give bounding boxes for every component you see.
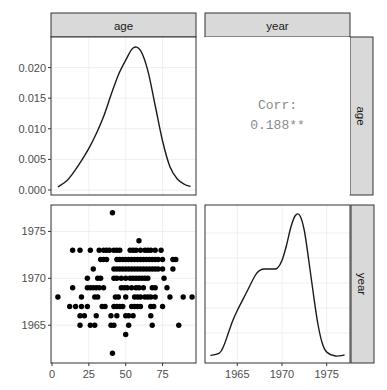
corr-label: Corr:: [258, 98, 297, 113]
scatter-point: [181, 294, 186, 299]
scatter-point: [117, 247, 122, 252]
scatter-point: [170, 266, 175, 271]
scatter-point: [123, 294, 128, 299]
panel-background: [51, 205, 196, 363]
strip-top-year: year: [205, 13, 350, 37]
scatter-point: [189, 294, 194, 299]
y-tick-label: 0.000: [18, 184, 46, 196]
x-tick-label: 1965: [225, 368, 249, 380]
scatter-point: [77, 247, 82, 252]
scatter-point: [130, 313, 135, 318]
scatter-point: [161, 276, 166, 281]
scatter-point: [136, 238, 141, 243]
scatter-point: [150, 322, 155, 327]
y-axis: 196519701975: [22, 225, 51, 331]
scatter-point: [110, 351, 115, 356]
scatter-point: [120, 304, 125, 309]
scatter-point: [116, 294, 121, 299]
scatter-point: [79, 294, 84, 299]
y-tick-label: 0.005: [18, 153, 46, 165]
scatter-point: [126, 322, 131, 327]
x-tick-label: 50: [120, 368, 132, 380]
scatter-point: [95, 294, 100, 299]
scatter-point: [91, 266, 96, 271]
scatter-point: [164, 285, 169, 290]
scatter-point: [138, 304, 143, 309]
scatter-point: [101, 285, 106, 290]
scatter-point: [85, 276, 90, 281]
scatter-point: [158, 247, 163, 252]
x-tick-label: 75: [156, 368, 168, 380]
y-tick-label: 0.015: [18, 92, 46, 104]
scatter-point: [108, 313, 113, 318]
scatter-point: [160, 257, 165, 262]
scatter-point: [70, 247, 75, 252]
corr-value: 0.188**: [250, 118, 305, 133]
y-tick-label: 1970: [22, 272, 46, 284]
scatter-point: [167, 294, 172, 299]
scatter-point: [152, 285, 157, 290]
scatter-point: [98, 276, 103, 281]
panel-scatter-age-year: 1965197019750255075: [22, 205, 196, 380]
scatter-point: [145, 276, 150, 281]
scatter-point: [73, 304, 78, 309]
strip-right-age: age: [350, 37, 373, 195]
x-tick-label: 0: [49, 368, 55, 380]
scatter-point: [55, 294, 60, 299]
panel-correlation: Corr: 0.188**: [205, 37, 350, 195]
strip-top-year-label: year: [266, 20, 289, 32]
scatter-point: [110, 210, 115, 215]
scatter-point: [152, 247, 157, 252]
scatter-point: [77, 322, 82, 327]
scatter-point: [176, 322, 181, 327]
scatter-point: [148, 313, 153, 318]
scatter-point: [102, 304, 107, 309]
scatter-point: [114, 313, 119, 318]
panel-year-density: 196519701975: [205, 205, 350, 380]
y-tick-label: 1965: [22, 319, 46, 331]
x-axis: 0255075: [49, 363, 169, 380]
strip-right-year-label: year: [356, 273, 368, 296]
scatter-point: [104, 257, 109, 262]
x-tick-label: 1975: [314, 368, 338, 380]
panel-age-density: 0.0000.0050.0100.0150.020: [18, 37, 196, 196]
y-tick-label: 0.020: [18, 62, 46, 74]
scatter-point: [88, 247, 93, 252]
scatter-point: [141, 285, 146, 290]
x-axis: 196519701975: [225, 363, 339, 380]
scatter-point: [111, 322, 116, 327]
strip-right-year: year: [351, 205, 374, 363]
scatter-point: [123, 332, 128, 337]
pairs-plot: age year age year 0.0000.0050.0100.0150.…: [0, 0, 387, 390]
scatter-point: [92, 322, 97, 327]
scatter-point: [151, 304, 156, 309]
scatter-point: [85, 304, 90, 309]
x-tick-label: 1970: [270, 368, 294, 380]
scatter-point: [94, 313, 99, 318]
strip-top-age-label: age: [114, 20, 133, 32]
strip-right-age-label: age: [355, 106, 367, 125]
scatter-point: [160, 266, 165, 271]
y-tick-label: 0.010: [18, 123, 46, 135]
scatter-point: [82, 313, 87, 318]
scatter-point: [160, 304, 165, 309]
scatter-point: [70, 285, 75, 290]
x-tick-label: 25: [83, 368, 95, 380]
scatter-point: [67, 304, 72, 309]
strip-top-age: age: [51, 13, 196, 37]
y-tick-label: 1975: [22, 225, 46, 237]
panel-background: [51, 37, 196, 195]
scatter-point: [79, 304, 84, 309]
scatter-point: [173, 257, 178, 262]
y-axis: 0.0000.0050.0100.0150.020: [18, 62, 51, 196]
scatter-point: [152, 294, 157, 299]
